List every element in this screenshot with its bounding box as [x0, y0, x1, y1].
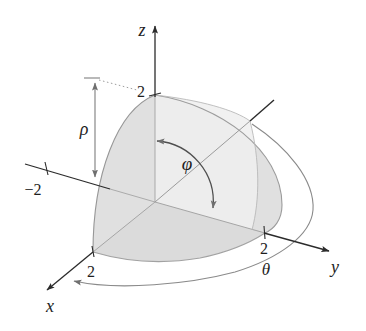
- theta-label: θ: [262, 260, 270, 279]
- x-axis-label: x: [45, 296, 54, 316]
- y-tick-label: 2: [260, 240, 268, 257]
- rho-label: ρ: [79, 119, 89, 139]
- spherical-coordinates-figure: z y x 2 2 2 −2 ρ φ θ: [0, 0, 366, 331]
- rho-radial-line: [250, 100, 274, 121]
- phi-label: φ: [182, 153, 193, 174]
- neg-y-axis-tick: [45, 162, 48, 175]
- figure-svg: z y x 2 2 2 −2 ρ φ θ: [0, 0, 366, 331]
- rho-leader-dotted-line: [99, 80, 137, 90]
- labels-group: z y x 2 2 2 −2 ρ φ θ: [24, 20, 339, 316]
- z-axis-label: z: [137, 20, 145, 40]
- neg-y-tick-label: −2: [24, 181, 41, 198]
- z-tick-label: 2: [137, 83, 145, 100]
- x-tick-label: 2: [87, 263, 95, 280]
- y-axis-label: y: [329, 257, 339, 277]
- y-axis: [264, 233, 329, 251]
